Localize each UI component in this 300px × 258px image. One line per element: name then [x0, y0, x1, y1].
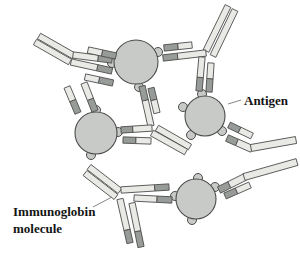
antibody-chain-dark-segment: [121, 126, 133, 133]
antibody-chain-dark-segment: [163, 53, 178, 61]
antibody-chain-light-segment: [129, 202, 141, 231]
antigen-label: Antigen: [244, 92, 288, 109]
antigen-leader-line: [228, 100, 241, 104]
immunoglobin-label-line1: Immunoglobin: [13, 203, 95, 220]
antibody-chain-dark-segment: [98, 77, 113, 86]
antibody-chain-light-segment: [136, 137, 151, 144]
antigen-shape: [75, 112, 117, 154]
figure-canvas: Antigen Immunoglobin molecule: [0, 0, 300, 258]
antibody-chain-light-segment: [151, 99, 160, 113]
antibody-chain-light-segment: [178, 42, 193, 50]
antibody-chain-light-segment: [81, 82, 93, 101]
antibody-chain-dark-segment: [206, 78, 213, 92]
antigen-shape: [114, 40, 158, 84]
antibody-chain-dark-segment: [154, 184, 169, 191]
antibody-chain-light-segment: [117, 198, 130, 230]
antibody-chain-dark-segment: [124, 229, 133, 244]
antibody-chain-dark-segment: [123, 137, 136, 144]
antibody-chain-light-segment: [250, 137, 296, 152]
antibody-chain-light-segment: [197, 57, 205, 78]
antibody-chain-dark-segment: [196, 77, 203, 91]
antibody-chain-light-segment: [238, 127, 253, 139]
immunoglobin-label: Immunoglobin molecule: [13, 203, 95, 237]
immunoglobin-leader-line: [93, 197, 112, 207]
antibody-chain-dark-segment: [139, 85, 148, 101]
antibody-chain-light-segment: [133, 125, 153, 133]
antigen-shape: [185, 96, 225, 136]
antibody-chain-dark-segment: [157, 196, 173, 203]
antibody-chain-dark-segment: [148, 87, 157, 100]
antibody-chain-dark-segment: [164, 43, 179, 51]
antibody-chain-light-segment: [207, 63, 214, 79]
antigen-shape: [176, 179, 216, 219]
antibody-chain-dark-segment: [135, 231, 144, 248]
antibody-chain-light-segment: [64, 86, 76, 102]
antibody-chain-light-segment: [121, 185, 155, 193]
immunoglobin-label-line2: molecule: [13, 220, 95, 237]
antibody-chain-light-segment: [134, 195, 157, 202]
antibody-chain-light-segment: [243, 159, 298, 181]
